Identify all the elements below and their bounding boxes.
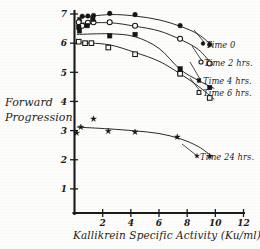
x-tick-label-8: 8 [184,218,191,228]
y-tick-label-3: 3 [61,126,67,136]
x-tick-label-10: 10 [209,218,222,228]
data-point-time-24-hrs-1 [78,124,84,130]
legend-marker-time-0 [201,42,205,46]
series-markers [74,11,213,159]
data-point-time-2-hrs-6 [178,36,183,41]
x-tick-label-4: 4 [128,218,134,228]
legend-label-time-2[interactable]: Time 2 hrs. [204,58,253,68]
data-point-time-24-hrs-2 [91,116,97,122]
data-point-time-0-5 [133,12,138,17]
y-tick-label-5: 5 [61,68,67,78]
data-point-time-4-hrs-1 [77,29,81,33]
curve-time-6-hrs [77,43,214,100]
x-axis-title: Kallikrein Specific Activity (Ku/ml) [73,229,260,241]
x-tick-label-12: 12 [237,218,250,228]
data-point-time-4-hrs-3 [91,17,95,21]
leader-line-time-24 [182,144,196,155]
data-point-time-2-hrs-5 [133,23,138,28]
x-tick-label-6: 6 [156,218,163,228]
y-axis-title: Forward Progression [5,95,73,125]
legend-marker-time-6 [197,91,201,95]
data-point-time-24-hrs-4 [132,129,138,135]
data-point-time-0-1 [80,14,85,19]
legend-marker-time-4 [197,79,201,83]
data-point-time-6-hrs-1 [83,41,88,46]
legend-label-time-4[interactable]: Time 4 hrs. [203,76,252,86]
series-curves [77,15,214,157]
y-tick-label-7: 7 [61,9,68,19]
y-tick-label-6: 6 [61,38,68,48]
data-point-time-4-hrs-6 [178,67,182,71]
data-point-time-4-hrs-2 [85,23,89,27]
data-point-time-4-hrs-4 [108,34,112,38]
data-point-time-6-hrs-5 [178,71,183,76]
curve-time-4-hrs [77,34,214,89]
y-tick-label-2: 2 [60,155,67,165]
y-axis-title-line1: Forward [5,95,73,110]
data-point-time-0-2 [86,14,91,19]
data-point-time-6-hrs-4 [133,52,138,57]
data-point-time-0-6 [178,23,183,28]
data-point-time-6-hrs-0 [76,39,81,44]
data-point-time-4-hrs-5 [133,32,137,36]
legend-marker-time-2 [199,60,203,64]
data-point-time-6-hrs-2 [89,41,94,46]
x-axis-ticks: 24681012 [99,209,250,228]
leader-line-time-0 [194,30,204,42]
data-point-time-6-hrs-3 [106,45,111,50]
legend-label-time-0[interactable]: Time 0 [206,40,235,50]
y-axis-title-line2: Progression [5,110,73,125]
figure-container: 1234567 24681012 Kallikrein Specific Act… [0,0,260,249]
curve-time-0 [77,15,212,47]
y-tick-label-1: 1 [61,184,67,194]
legend-label-time-6[interactable]: Time 6 hrs. [203,88,252,98]
legend-label-time-24[interactable]: Time 24 hrs. [200,152,254,162]
data-point-time-0-4 [107,11,112,16]
data-point-time-2-hrs-4 [107,20,112,25]
x-tick-label-2: 2 [99,218,106,228]
